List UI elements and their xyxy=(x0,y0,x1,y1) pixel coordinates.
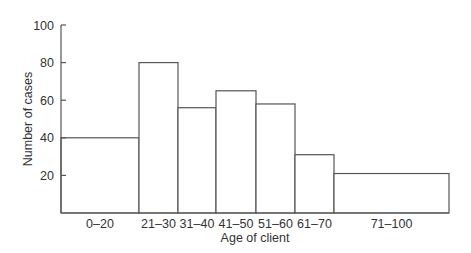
x-tick-label: 61–70 xyxy=(297,217,332,231)
y-axis-title: Number of cases xyxy=(21,72,35,166)
y-tick-label: 20 xyxy=(40,169,54,183)
bar-4 xyxy=(256,104,295,213)
y-tick-label: 80 xyxy=(40,56,54,70)
x-tick-label: 0–20 xyxy=(86,217,114,231)
bars-group xyxy=(61,63,449,213)
bar-6 xyxy=(334,174,449,213)
bar-5 xyxy=(295,155,334,213)
bar-0 xyxy=(61,138,139,213)
y-tick-label: 100 xyxy=(33,19,54,33)
x-tick-labels: 0–2021–3031–4041–5051–6061–7071–100 xyxy=(86,217,412,231)
x-tick-label: 51–60 xyxy=(258,217,293,231)
y-tick-label: 60 xyxy=(40,94,54,108)
bar-1 xyxy=(139,63,178,213)
histogram-chart: 20406080100 0–2021–3031–4041–5051–6061–7… xyxy=(0,0,471,253)
x-tick-label: 41–50 xyxy=(219,217,254,231)
x-tick-label: 21–30 xyxy=(141,217,176,231)
bar-2 xyxy=(178,108,216,213)
x-tick-label: 71–100 xyxy=(371,217,413,231)
y-tick-label: 40 xyxy=(40,131,54,145)
x-tick-label: 31–40 xyxy=(180,217,215,231)
x-axis-title: Age of client xyxy=(221,231,290,245)
bar-3 xyxy=(216,91,256,213)
